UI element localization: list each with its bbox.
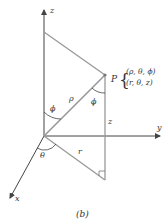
right-angle-mark bbox=[99, 171, 105, 176]
x-axis bbox=[10, 136, 44, 198]
top-to-p-line bbox=[44, 32, 105, 75]
rho-label: ρ bbox=[68, 94, 74, 103]
x-axis-label: x bbox=[15, 194, 20, 203]
point-p-marker bbox=[103, 73, 106, 76]
spherical-coords: (ρ, θ, ϕ) bbox=[126, 67, 155, 76]
z-height-label: z bbox=[107, 117, 113, 126]
cylindrical-coords: (r, θ, z) bbox=[126, 78, 153, 87]
phi-label-origin: ϕ bbox=[50, 104, 56, 113]
phi-arc-origin bbox=[44, 112, 61, 119]
theta-label: θ bbox=[40, 151, 45, 160]
point-p-label: P bbox=[110, 74, 118, 84]
coordinate-diagram: z y x P { (ρ, θ, ϕ) (r, θ, z) ρ ϕ ϕ z θ … bbox=[0, 0, 168, 224]
y-axis-label: y bbox=[156, 123, 162, 132]
figure-caption: (b) bbox=[76, 209, 89, 219]
phi-arc-point bbox=[92, 88, 105, 93]
r-line bbox=[44, 136, 105, 180]
theta-arc bbox=[37, 144, 56, 150]
z-axis-label: z bbox=[49, 6, 55, 15]
r-label: r bbox=[78, 147, 83, 156]
phi-label-point: ϕ bbox=[91, 97, 97, 106]
